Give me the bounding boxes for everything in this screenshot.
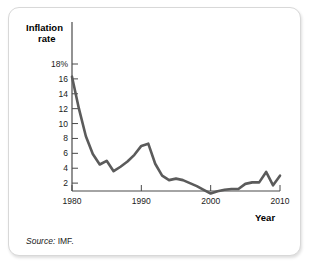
- x-tick-label-2010: 2010: [271, 196, 290, 206]
- source-value: IMF.: [58, 236, 74, 246]
- y-tick-label-18%: 18%: [51, 59, 68, 69]
- x-tick-label-2000: 2000: [201, 196, 220, 206]
- inflation-line-chart: 24681012141618% 1980199020002010 Inflati…: [9, 8, 302, 257]
- y-tick-label-12: 12: [59, 104, 69, 114]
- y-tick-label-2: 2: [63, 178, 68, 188]
- x-axis-tick-labels: 1980199020002010: [63, 196, 290, 206]
- y-tick-label-14: 14: [59, 89, 69, 99]
- figure-card: 24681012141618% 1980199020002010 Inflati…: [8, 7, 301, 256]
- x-axis-title: Year: [255, 212, 275, 223]
- y-tick-label-4: 4: [63, 163, 68, 173]
- x-axis-ticks: [72, 185, 280, 191]
- y-axis-tick-labels: 24681012141618%: [51, 59, 68, 188]
- y-tick-label-6: 6: [63, 148, 68, 158]
- source-label: Source:: [26, 236, 55, 246]
- y-axis-title-line1: Inflation: [26, 22, 63, 33]
- source-note: Source: IMF.: [26, 236, 74, 246]
- inflation-data-line: [72, 77, 280, 194]
- x-tick-label-1990: 1990: [132, 196, 151, 206]
- x-tick-label-1980: 1980: [63, 196, 82, 206]
- y-axis-title-line2: rate: [38, 33, 55, 44]
- y-tick-label-10: 10: [59, 119, 69, 129]
- chart-plot-area: 24681012141618% 1980199020002010 Inflati…: [9, 8, 302, 257]
- y-tick-label-16: 16: [59, 74, 69, 84]
- y-tick-label-8: 8: [63, 133, 68, 143]
